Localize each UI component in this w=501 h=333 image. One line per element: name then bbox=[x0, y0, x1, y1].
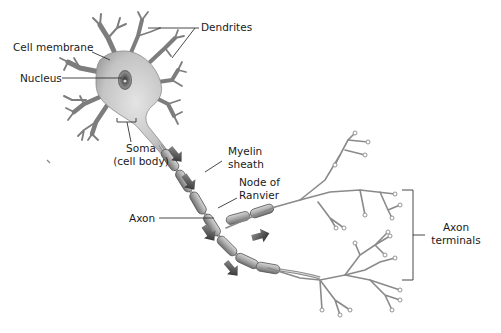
label-axon: Axon bbox=[129, 212, 155, 224]
label-node-of-ranvier: Node of bbox=[239, 176, 280, 188]
label-node-of-ranvier-sub: Ranvier bbox=[239, 189, 280, 201]
arrow-icon bbox=[250, 227, 271, 245]
label-axon-terminals: Axon bbox=[443, 221, 469, 233]
label-soma: Soma bbox=[126, 142, 156, 154]
label-nucleus: Nucleus bbox=[20, 72, 62, 84]
label-soma-sub: (cell body) bbox=[113, 155, 169, 167]
label-myelin: Myelin bbox=[228, 145, 262, 157]
label-dendrites: Dendrites bbox=[201, 21, 252, 33]
label-cell-membrane: Cell membrane bbox=[13, 41, 93, 53]
label-myelin-sub: sheath bbox=[228, 158, 264, 170]
terminal-knobs bbox=[320, 131, 402, 317]
label-axon-terminals-sub: terminals bbox=[431, 234, 480, 246]
neuron-diagram: Dendrites Cell membrane Nucleus Soma (ce… bbox=[0, 0, 501, 333]
